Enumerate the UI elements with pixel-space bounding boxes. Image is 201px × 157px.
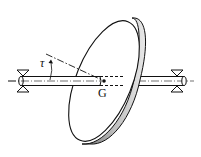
angle-label: τ [40,56,45,70]
shaft-left [8,77,101,86]
angle-arrow-icon [49,60,54,64]
center-point [102,79,106,83]
disk-shaft-diagram: τ G [0,0,201,157]
center-label: G [98,86,107,100]
